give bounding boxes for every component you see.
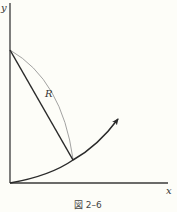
y-axis-label: y	[0, 2, 7, 13]
figure-caption: 図 2–6	[74, 200, 102, 210]
diagram-canvas: y x R 図 2–6	[0, 0, 177, 212]
x-axis-label: x	[166, 185, 172, 196]
radius-label: R	[44, 88, 53, 99]
radius-segment	[10, 50, 73, 160]
trajectory-curve	[10, 119, 118, 183]
